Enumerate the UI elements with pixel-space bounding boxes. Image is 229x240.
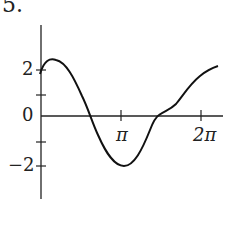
y-tick-label-neg2: −2 xyxy=(8,156,35,174)
y-tick-label-2: 2 xyxy=(22,60,33,78)
y-tick-label-0: 0 xyxy=(22,106,33,124)
function-curve xyxy=(40,59,218,166)
x-tick-label-2pi: 2π xyxy=(193,126,216,144)
x-tick-label-pi: π xyxy=(116,126,128,144)
